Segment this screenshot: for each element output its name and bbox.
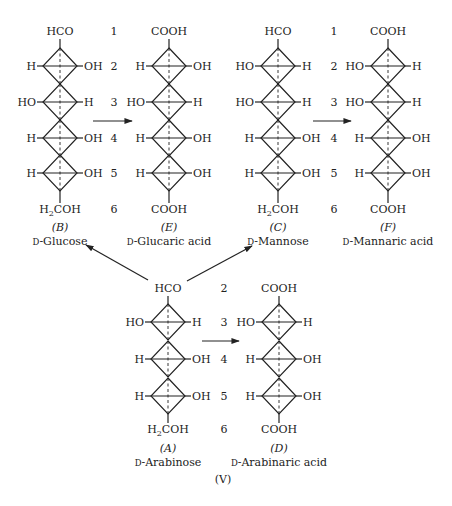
left-substituent: H bbox=[244, 167, 254, 180]
right-substituent: H bbox=[303, 316, 313, 329]
bottom-group-label: COOH bbox=[151, 203, 187, 216]
structure-letter: (E) bbox=[161, 221, 178, 234]
right-substituent: H bbox=[302, 60, 312, 73]
right-substituent: OH bbox=[84, 167, 103, 180]
structure-letter: (C) bbox=[270, 221, 287, 234]
structure-letter: (B) bbox=[52, 221, 69, 234]
bottom-group-label: H2COH bbox=[39, 203, 81, 218]
stereocenter: HOH bbox=[235, 84, 311, 120]
left-substituent: HO bbox=[126, 96, 145, 109]
structure-d-arabinaric-acid: COOHHOHHOHHOHCOOH(D)D-Arabinaric acid bbox=[231, 282, 327, 469]
left-substituent: HO bbox=[345, 60, 364, 73]
structure-d-glucose: HCOHOHHOHHOHHOHH2COH(B)D-Glucose bbox=[17, 25, 102, 248]
carbon-number: 2 bbox=[331, 60, 338, 73]
carbon-number: 4 bbox=[221, 353, 228, 366]
right-substituent: OH bbox=[192, 353, 211, 366]
carbon-number: 6 bbox=[221, 423, 228, 436]
bottom-group-label: COOH bbox=[261, 423, 297, 436]
structure-name: D-Arabinose bbox=[135, 456, 202, 469]
left-substituent: HO bbox=[236, 316, 255, 329]
bottom-group-label: H2COH bbox=[257, 203, 299, 218]
carbon-number: 4 bbox=[331, 132, 338, 145]
left-substituent: H bbox=[244, 132, 254, 145]
carbohydrate-diagram: HCOHOHHOHHOHHOHH2COH(B)D-GlucoseCOOHHOHH… bbox=[0, 0, 452, 506]
carbon-numbers-layer: 12345612345623456 bbox=[111, 25, 338, 436]
structure-name: D-Glucaric acid bbox=[127, 235, 211, 248]
carbon-number: 1 bbox=[331, 25, 338, 38]
structure-name: D-Glucose bbox=[33, 235, 88, 248]
stereocenter: HOH bbox=[245, 341, 321, 377]
stereocenter: HOH bbox=[17, 84, 93, 120]
right-substituent: OH bbox=[193, 167, 212, 180]
right-substituent: OH bbox=[412, 167, 431, 180]
structure-d-arabinose: HCOHOHHOHHOHH2COH(A)D-Arabinose bbox=[125, 282, 210, 469]
right-substituent: OH bbox=[84, 60, 103, 73]
left-substituent: H bbox=[135, 132, 145, 145]
left-substituent: H bbox=[26, 132, 36, 145]
top-group-label: COOH bbox=[151, 25, 187, 38]
stereocenter: HOH bbox=[26, 48, 102, 84]
structure-name: D-Mannose bbox=[247, 235, 308, 248]
stereocenter: HOH bbox=[135, 155, 211, 191]
right-substituent: H bbox=[412, 96, 422, 109]
stereocenter: HOH bbox=[345, 48, 421, 84]
stereocenter: HOH bbox=[134, 341, 210, 377]
left-substituent: H bbox=[134, 390, 144, 403]
left-substituent: HO bbox=[235, 60, 254, 73]
bottom-group-label: COOH bbox=[370, 203, 406, 216]
left-substituent: H bbox=[135, 60, 145, 73]
left-substituent: HO bbox=[17, 96, 36, 109]
carbon-number: 5 bbox=[111, 167, 118, 180]
arrow-arabinose-to-mannose bbox=[187, 246, 252, 281]
structure-letter: (A) bbox=[160, 442, 177, 455]
structure-d-mannose: HCOHOHHOHHOHHOHH2COH(C)D-Mannose bbox=[235, 25, 320, 248]
stereocenter: HOH bbox=[26, 155, 102, 191]
carbon-number: 6 bbox=[111, 203, 118, 216]
structure-letter: (F) bbox=[380, 221, 396, 234]
stereocenter: HOH bbox=[235, 48, 311, 84]
right-substituent: OH bbox=[303, 390, 322, 403]
carbon-number: 5 bbox=[331, 167, 338, 180]
left-substituent: H bbox=[134, 353, 144, 366]
figure-label: (V) bbox=[215, 473, 232, 486]
bottom-group-label: H2COH bbox=[147, 423, 189, 438]
carbon-number: 3 bbox=[111, 96, 118, 109]
right-substituent: OH bbox=[302, 167, 321, 180]
top-group-label: COOH bbox=[370, 25, 406, 38]
left-substituent: H bbox=[245, 353, 255, 366]
right-substituent: OH bbox=[192, 390, 211, 403]
stereocenter: HOH bbox=[135, 120, 211, 156]
carbon-number: 3 bbox=[221, 316, 228, 329]
stereocenter: HOH bbox=[244, 120, 320, 156]
carbon-number: 2 bbox=[111, 60, 118, 73]
top-group-label: HCO bbox=[46, 25, 73, 38]
right-substituent: H bbox=[84, 96, 94, 109]
stereocenter: HOH bbox=[354, 120, 430, 156]
right-substituent: OH bbox=[84, 132, 103, 145]
carbon-number: 5 bbox=[221, 390, 228, 403]
carbon-number: 6 bbox=[331, 203, 338, 216]
carbon-number: 1 bbox=[111, 25, 118, 38]
carbon-number: 2 bbox=[221, 282, 228, 295]
carbon-number: 3 bbox=[331, 96, 338, 109]
stereocenter: HOH bbox=[134, 378, 210, 414]
right-substituent: H bbox=[412, 60, 422, 73]
stereocenter: HOH bbox=[244, 155, 320, 191]
structure-letter: (D) bbox=[270, 442, 287, 455]
top-group-label: COOH bbox=[261, 282, 297, 295]
right-substituent: OH bbox=[412, 132, 431, 145]
structure-d-mannaric-acid: COOHHOHHOHHOHHOHCOOH(F)D-Mannaric acid bbox=[343, 25, 434, 248]
right-substituent: H bbox=[193, 96, 203, 109]
right-substituent: OH bbox=[193, 132, 212, 145]
top-group-label: HCO bbox=[264, 25, 291, 38]
structure-d-glucaric-acid: COOHHOHHOHHOHHOHCOOH(E)D-Glucaric acid bbox=[126, 25, 211, 248]
stereocenter: HOH bbox=[26, 120, 102, 156]
left-substituent: HO bbox=[235, 96, 254, 109]
left-substituent: HO bbox=[125, 316, 144, 329]
structure-name: D-Mannaric acid bbox=[343, 235, 434, 248]
arrow-arabinose-to-glucose bbox=[86, 245, 148, 280]
right-substituent: OH bbox=[303, 353, 322, 366]
right-substituent: OH bbox=[193, 60, 212, 73]
right-substituent: H bbox=[192, 316, 202, 329]
reaction-arrows-layer bbox=[86, 121, 351, 341]
